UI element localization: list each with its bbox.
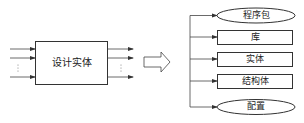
design-entity-label: 设计实体	[35, 58, 108, 68]
hollow-right-arrow-icon	[144, 52, 170, 72]
input-arrows	[10, 49, 35, 77]
component-connectors	[190, 16, 217, 108]
component-label-entity: 实体	[217, 55, 293, 64]
output-ellipsis-icon	[121, 65, 122, 72]
component-label-architecture: 结构体	[217, 77, 293, 86]
component-label-package: 程序包	[217, 11, 295, 20]
output-arrows	[108, 49, 133, 77]
input-ellipsis-icon	[18, 65, 19, 72]
component-label-configuration: 配置	[217, 102, 295, 111]
component-label-library: 库	[217, 33, 293, 42]
